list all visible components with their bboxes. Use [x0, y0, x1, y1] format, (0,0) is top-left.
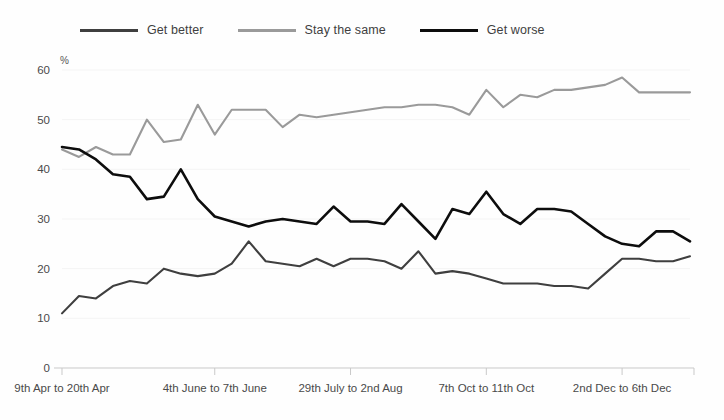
- line-chart: Get better Stay the same Get worse % 010…: [0, 0, 724, 420]
- x-axis-tick-0: 9th Apr to 20th Apr: [14, 382, 109, 394]
- x-axis-tick-4: 2nd Dec to 6th Dec: [573, 382, 671, 394]
- x-axis-tick-2: 29th July to 2nd Aug: [298, 382, 402, 394]
- x-axis-tick-1: 4th June to 7th June: [163, 382, 267, 394]
- x-axis-tick-3: 7th Oct to 11th Oct: [438, 382, 534, 394]
- x-axis-tick-labels: 9th Apr to 20th Apr4th June to 7th June2…: [0, 0, 724, 420]
